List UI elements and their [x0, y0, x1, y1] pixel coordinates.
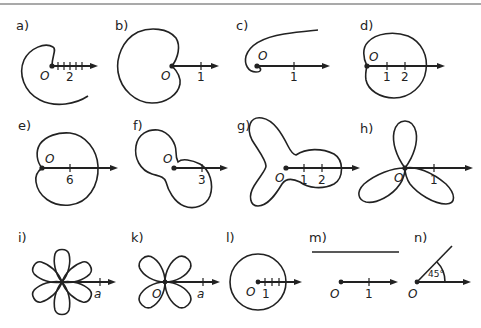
- origin-point: [256, 280, 261, 285]
- panel-b: b) O 1: [115, 18, 219, 103]
- rose-petal: [54, 282, 69, 315]
- arrow-icon: [463, 279, 471, 285]
- origin-point: [283, 165, 288, 170]
- spiral-curve: [22, 45, 88, 104]
- origin-point: [60, 280, 65, 285]
- origin-point: [169, 63, 174, 68]
- origin-point: [39, 165, 44, 170]
- origin-point: [49, 63, 54, 68]
- panel-n-label: n): [414, 230, 427, 245]
- origin-label: O: [246, 285, 255, 299]
- tick-label: a: [197, 287, 204, 301]
- origin-label: O: [163, 152, 172, 166]
- tick-label: 2: [401, 70, 409, 84]
- origin-point: [171, 165, 176, 170]
- origin-label: O: [330, 287, 339, 301]
- arrow-icon: [211, 63, 219, 69]
- panel-l-label: l): [226, 230, 235, 245]
- panel-e-label: e): [18, 118, 31, 133]
- origin-label: O: [258, 49, 267, 63]
- tick-label: 1: [290, 70, 298, 84]
- tick-label: 1: [430, 173, 438, 187]
- panel-i: i) a: [18, 230, 116, 315]
- arrow-icon: [352, 165, 360, 171]
- origin-label: O: [408, 287, 417, 301]
- arrow-icon: [212, 279, 220, 285]
- origin-point: [163, 280, 168, 285]
- tick-label: a: [94, 287, 101, 301]
- origin-label: O: [394, 171, 403, 185]
- origin-label: O: [161, 69, 170, 83]
- tick-label: 1: [300, 173, 308, 187]
- arrow-icon: [390, 279, 398, 285]
- origin-point: [364, 63, 369, 68]
- panel-k-label: k): [131, 230, 144, 245]
- rose-petal: [393, 121, 416, 168]
- arrow-icon: [90, 63, 98, 69]
- panel-c: c) O 1: [236, 18, 330, 84]
- origin-label: O: [152, 287, 161, 301]
- panel-f: f) O 3: [133, 118, 228, 208]
- panel-m-label: m): [309, 230, 327, 245]
- panel-g-label: g): [237, 118, 250, 133]
- origin-point: [339, 280, 344, 285]
- panel-g: g) O 1 2: [237, 118, 360, 206]
- oval-curve: [36, 133, 98, 205]
- tick-label: 6: [66, 173, 74, 187]
- origin-label: O: [369, 50, 378, 64]
- panel-m: m) O 1: [309, 230, 399, 301]
- panel-d: d) O 1 2: [360, 18, 445, 98]
- panel-h-label: h): [360, 121, 373, 136]
- origin-point: [402, 165, 407, 170]
- origin-label: O: [275, 171, 284, 185]
- panel-l: l) O 1: [226, 230, 302, 310]
- arrow-icon: [110, 165, 118, 171]
- three-lobed-curve: [249, 118, 341, 206]
- tick-label: 2: [66, 70, 74, 84]
- panel-i-label: i): [18, 230, 27, 245]
- tick-label: 3: [198, 173, 206, 187]
- angle-label: 45°: [428, 269, 444, 279]
- tick-label: 2: [318, 173, 326, 187]
- arrow-icon: [220, 165, 228, 171]
- panel-f-label: f): [133, 118, 143, 133]
- panel-k: k) O a: [131, 230, 220, 311]
- panel-d-label: d): [360, 18, 373, 33]
- tick-label: 1: [197, 70, 205, 84]
- panel-c-label: c): [236, 18, 248, 33]
- panel-b-label: b): [115, 18, 128, 33]
- panel-n: n) 45° O: [408, 230, 471, 301]
- panel-e: e) O 6: [18, 118, 118, 205]
- tick-label: 1: [262, 287, 270, 301]
- origin-point: [254, 63, 259, 68]
- origin-point: [415, 280, 420, 285]
- arrow-icon: [108, 279, 116, 285]
- origin-label: O: [45, 152, 54, 166]
- panel-a-label: a): [16, 18, 29, 33]
- arrow-icon: [294, 279, 302, 285]
- tick-label: 1: [383, 70, 391, 84]
- rose-petal: [54, 250, 69, 283]
- panel-h: h) O 1: [359, 121, 473, 204]
- panel-a: a) O 2: [16, 18, 98, 104]
- arrow-icon: [322, 63, 330, 69]
- tick-label: 1: [365, 287, 373, 301]
- arrow-icon: [465, 165, 473, 171]
- polar-curves-figure: a) O 2 b) O 1 c) O 1 d): [0, 0, 481, 328]
- arrow-icon: [437, 63, 445, 69]
- origin-label: O: [40, 69, 49, 83]
